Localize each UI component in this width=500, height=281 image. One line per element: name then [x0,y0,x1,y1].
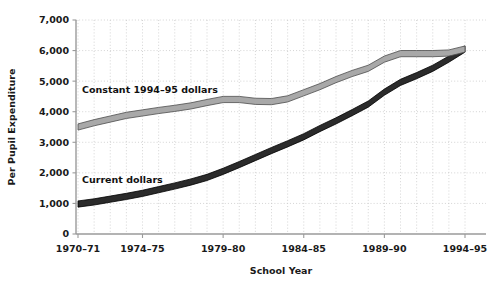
y-tick-label: 3,000 [39,137,69,148]
y-tick-label: 1,000 [39,198,69,209]
y-tick-label: 0 [62,228,69,239]
y-tick-label: 7,000 [39,14,69,25]
y-tick-label: 6,000 [39,45,69,56]
chart-background [0,0,500,281]
x-tick-label: 1994–95 [443,243,487,254]
chart-figure: 01,0002,0003,0004,0005,0006,0007,000 197… [0,0,500,281]
series-inline-label: Constant 1994–95 dollars [82,84,218,95]
chart-svg: 01,0002,0003,0004,0005,0006,0007,000 197… [0,0,500,281]
series-inline-label: Current dollars [82,174,163,185]
x-tick-label: 1984–85 [282,243,326,254]
x-tick-label: 1970–71 [56,243,100,254]
x-tick-label: 1974–75 [120,243,164,254]
y-tick-label: 5,000 [39,76,69,87]
y-tick-label: 4,000 [39,106,69,117]
y-axis-title: Per Pupil Expenditure [6,69,17,186]
x-axis-title: School Year [250,265,313,276]
x-tick-label: 1979–80 [201,243,246,254]
x-tick-label: 1989–90 [362,243,407,254]
y-tick-label: 2,000 [39,167,69,178]
